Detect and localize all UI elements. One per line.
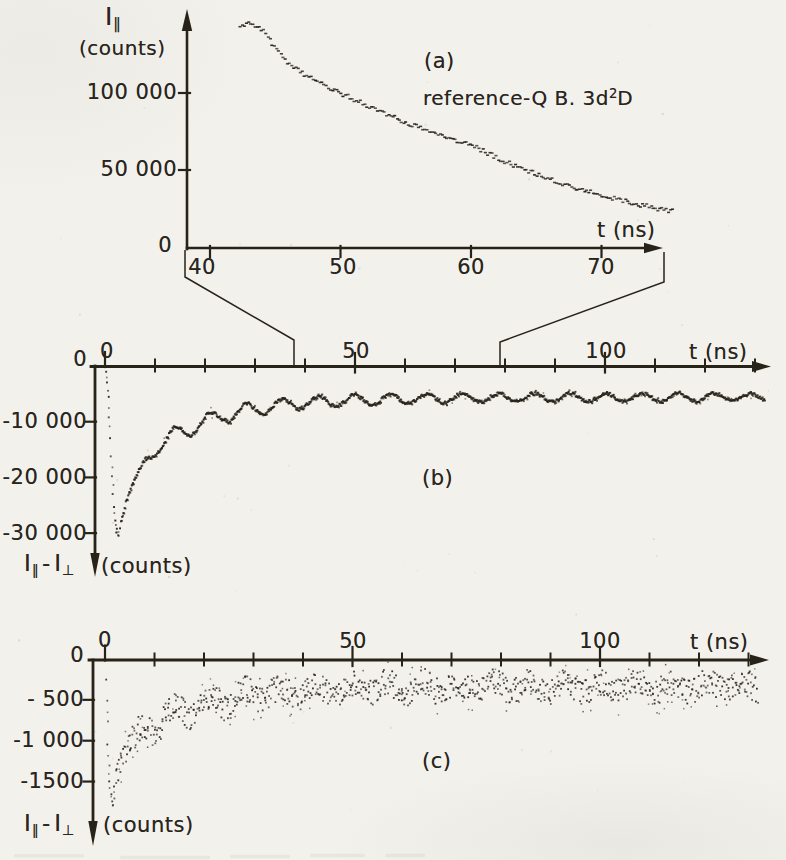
panel-b-x-tick-50: 50 — [331, 339, 381, 364]
minus-sign: - — [42, 810, 51, 836]
intensity-symbol: I — [54, 550, 62, 576]
parallel-subscript: ∥ — [32, 562, 39, 578]
panel-b-x-tick-0: 0 — [92, 339, 122, 364]
panel-b-y-tick-0: 0 — [2, 347, 87, 372]
parallel-subscript: ∥ — [32, 822, 39, 838]
panel-a-annotation: reference-Q B. 3d2D — [423, 81, 633, 111]
panel-a-y-axis-units: (counts) — [79, 36, 165, 61]
panel-c-y-axis-units: (counts) — [103, 813, 194, 838]
panel-a-x-tick-60: 60 — [446, 255, 496, 280]
intensity-symbol: I — [105, 2, 113, 31]
intensity-symbol: I — [24, 810, 32, 836]
panel-b-y-axis-title: I∥-I⊥ — [24, 551, 74, 583]
panel-c-y-tick-minus500: - 500 — [4, 687, 84, 712]
panel-c-y-tick-0: 0 — [4, 643, 84, 668]
annotation-term-symbol: D — [617, 86, 633, 110]
panel-b-data-points — [105, 371, 766, 537]
panel-c-y-axis-title: I∥-I⊥ — [24, 811, 74, 843]
panel-a-axes — [179, 9, 663, 257]
plot-canvas — [0, 0, 786, 860]
panel-a-x-tick-50: 50 — [318, 255, 368, 280]
panel-b-axes — [86, 352, 772, 577]
panel-a-x-axis-title: t (ns) — [597, 218, 656, 243]
panel-c-y-tick-minus1500: -1500 — [4, 769, 84, 794]
panel-a-x-tick-70: 70 — [576, 255, 626, 280]
panel-c-y-tick-minus1000: -1 000 — [4, 728, 84, 753]
parallel-subscript: ∥ — [113, 15, 121, 33]
panel-c-label: (c) — [422, 749, 451, 774]
panel-c-x-tick-100: 100 — [569, 629, 631, 654]
perpendicular-subscript: ⊥ — [62, 822, 74, 838]
perpendicular-subscript: ⊥ — [62, 562, 74, 578]
panel-a-y-axis-title: I∥ — [105, 4, 121, 37]
annotation-text: reference-Q B. 3d — [423, 86, 609, 110]
minus-sign: - — [42, 550, 51, 576]
panel-b-x-tick-100: 100 — [575, 339, 637, 364]
panel-b-x-axis-title: t (ns) — [689, 340, 748, 365]
panel-c-x-tick-0: 0 — [90, 628, 120, 653]
panel-a-x-tick-40: 40 — [177, 255, 227, 280]
panel-b-y-tick-minus30000: -30 000 — [2, 521, 87, 546]
panel-b-label: (b) — [422, 466, 453, 491]
panel-a-y-tick-100000: 100 000 — [59, 80, 177, 105]
panel-c-x-tick-50: 50 — [328, 629, 378, 654]
panel-b-y-axis-units: (counts) — [101, 554, 192, 579]
figure-root: I∥ (counts) 100 000 50 000 0 40 50 60 70… — [0, 0, 786, 860]
panel-b-y-tick-minus10000: -10 000 — [2, 409, 87, 434]
panel-c-data-points — [105, 662, 759, 807]
scan-artifacts — [14, 25, 769, 859]
panel-b-y-tick-minus20000: -20 000 — [2, 465, 87, 490]
panel-a-y-tick-50000: 50 000 — [59, 157, 177, 182]
panel-a-data-points — [239, 21, 675, 213]
panel-a-y-tick-0: 0 — [59, 233, 172, 258]
intensity-symbol: I — [54, 810, 62, 836]
panel-a-label: (a) — [424, 49, 455, 74]
intensity-symbol: I — [24, 550, 32, 576]
panel-c-x-axis-title: t (ns) — [690, 630, 749, 655]
